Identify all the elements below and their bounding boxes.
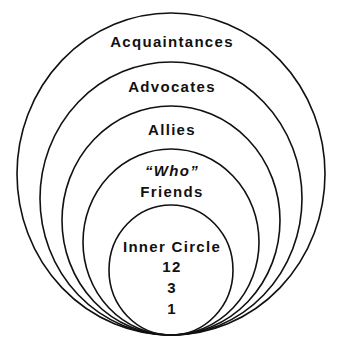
label-who: “Who” (145, 162, 199, 179)
label-inner-circle: Inner Circle (123, 238, 221, 255)
label-advocates: Advocates (128, 78, 216, 95)
nested-circles-diagram: Acquaintances Advocates Allies “Who” Fri… (0, 0, 342, 362)
inner-number-1: 1 (167, 300, 177, 317)
label-allies: Allies (148, 121, 196, 138)
inner-number-3: 3 (167, 279, 177, 296)
label-friends: Friends (140, 183, 203, 200)
inner-number-12: 12 (162, 258, 181, 275)
label-acquaintances: Acquaintances (110, 33, 234, 50)
